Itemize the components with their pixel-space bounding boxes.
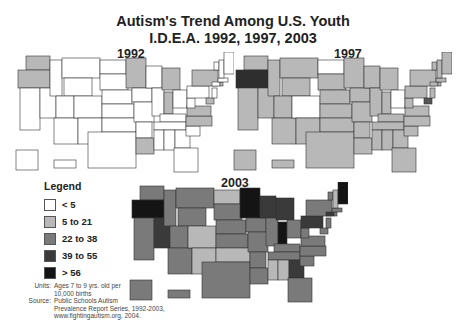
state-mn bbox=[126, 58, 146, 88]
state-ia bbox=[350, 88, 370, 102]
state-wy bbox=[178, 208, 206, 226]
state-ut bbox=[274, 96, 292, 118]
state-oh bbox=[391, 90, 405, 108]
state-ca bbox=[238, 88, 258, 130]
state-il bbox=[152, 88, 164, 116]
us-map-1992 bbox=[14, 52, 234, 177]
state-mo bbox=[248, 232, 268, 252]
state-la bbox=[354, 138, 372, 154]
state-ne bbox=[102, 90, 132, 104]
state-wv bbox=[187, 98, 195, 108]
legend-swatch bbox=[44, 216, 56, 228]
state-oh bbox=[287, 220, 301, 238]
state-il bbox=[370, 88, 382, 116]
state-pa bbox=[301, 216, 323, 228]
legend-item: 22 to 38 bbox=[44, 230, 97, 247]
legend: Legend < 5 5 to 21 22 to 38 39 to 55 > 5… bbox=[30, 180, 97, 281]
legend-swatch bbox=[44, 199, 56, 211]
chart-subtitle: I.D.E.A. 1992, 1997, 2003 bbox=[0, 30, 466, 47]
state-ia bbox=[132, 88, 152, 102]
state-ky bbox=[160, 114, 186, 122]
state-wy bbox=[64, 78, 92, 96]
state-oh bbox=[173, 90, 187, 108]
state-mi bbox=[276, 198, 294, 220]
state-az bbox=[54, 118, 78, 144]
state-il bbox=[266, 218, 278, 246]
state-ok bbox=[320, 118, 354, 132]
state-la bbox=[250, 268, 268, 284]
us-map-1997 bbox=[232, 52, 452, 177]
state-ar bbox=[354, 122, 370, 138]
state-mi bbox=[162, 68, 180, 90]
state-tx bbox=[202, 262, 250, 298]
state-vt bbox=[328, 192, 333, 200]
state-wv bbox=[301, 228, 309, 238]
state-nd bbox=[318, 60, 344, 74]
state-or bbox=[18, 70, 50, 88]
state-in bbox=[382, 92, 391, 114]
state-wi bbox=[260, 196, 276, 218]
state-mn bbox=[344, 58, 364, 88]
notes: Units:Ages 7 to 9 yrs. old per 10,000 bi… bbox=[20, 282, 165, 320]
state-ut bbox=[170, 226, 188, 248]
state-sc bbox=[300, 256, 314, 266]
state-wa bbox=[140, 186, 164, 200]
state-ar bbox=[136, 122, 152, 138]
state-ms bbox=[154, 130, 164, 150]
state-md bbox=[320, 228, 328, 234]
state-co bbox=[188, 226, 216, 248]
state-ky bbox=[274, 244, 300, 252]
state-nj bbox=[430, 88, 435, 98]
state-co bbox=[292, 96, 320, 118]
state-wi bbox=[364, 66, 380, 88]
legend-item: > 56 bbox=[44, 264, 97, 281]
state-ky bbox=[378, 114, 404, 122]
legend-title: Legend bbox=[44, 180, 97, 192]
state-sd bbox=[100, 74, 128, 90]
state-al bbox=[164, 130, 175, 150]
state-ms bbox=[268, 260, 278, 280]
state-fl bbox=[174, 148, 198, 172]
state-al bbox=[278, 260, 289, 280]
state-nd bbox=[214, 190, 240, 204]
state-ar bbox=[250, 252, 266, 268]
legend-swatch bbox=[44, 267, 56, 279]
state-ri bbox=[334, 212, 337, 216]
state-vt bbox=[214, 62, 219, 70]
state-co bbox=[74, 96, 102, 118]
state-sc bbox=[404, 126, 418, 136]
state-tx bbox=[306, 132, 354, 168]
state-ri bbox=[220, 82, 223, 86]
legend-item: 5 to 21 bbox=[44, 213, 97, 230]
state-id bbox=[164, 190, 176, 226]
state-nh bbox=[219, 60, 224, 78]
state-md bbox=[206, 98, 214, 104]
state-mo bbox=[134, 102, 154, 122]
state-ks bbox=[102, 104, 134, 118]
state-az bbox=[168, 248, 192, 274]
state-id bbox=[50, 60, 62, 96]
state-me bbox=[338, 182, 348, 204]
legend-swatch bbox=[44, 250, 56, 262]
state-ok bbox=[102, 118, 136, 132]
state-wa bbox=[244, 56, 268, 70]
state-or bbox=[236, 70, 268, 88]
state-mt bbox=[280, 58, 318, 78]
state-ak bbox=[16, 150, 38, 170]
state-md bbox=[424, 98, 432, 104]
state-nc bbox=[300, 246, 326, 256]
legend-item: 39 to 55 bbox=[44, 247, 97, 264]
state-hi bbox=[272, 160, 294, 168]
state-mt bbox=[176, 188, 214, 208]
state-ri bbox=[438, 82, 441, 86]
state-az bbox=[272, 118, 296, 144]
state-ct bbox=[326, 212, 334, 216]
state-tx bbox=[88, 132, 136, 168]
state-hi bbox=[54, 160, 76, 168]
state-nh bbox=[437, 60, 442, 78]
legend-swatch bbox=[44, 233, 56, 245]
state-ms bbox=[372, 130, 382, 150]
legend-item: < 5 bbox=[44, 196, 97, 213]
state-pa bbox=[405, 86, 427, 98]
state-ne bbox=[216, 220, 246, 234]
